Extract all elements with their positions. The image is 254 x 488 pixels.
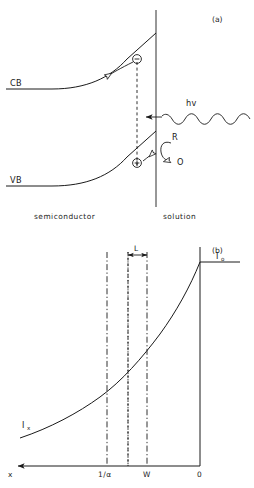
depth-intensity-subscript: x: [27, 425, 31, 431]
valence-band-curve: [6, 131, 156, 186]
hole-drift-arrow: [143, 152, 154, 161]
diffusion-length-label: L: [134, 244, 139, 253]
depth-axis-label: x: [8, 470, 13, 479]
depth-intensity-symbol: I: [22, 420, 25, 430]
photon-label: hv: [186, 98, 197, 108]
electron-drift-arrow: [106, 62, 133, 77]
figure-svg: (a) CB VB: [0, 0, 254, 488]
phase-label-solution: solution: [163, 212, 196, 221]
tick-label-zero: 0: [197, 470, 202, 479]
reduced-species-label: R: [172, 132, 178, 142]
conduction-band-label: CB: [10, 78, 22, 88]
oxidized-species-label: O: [177, 157, 184, 167]
panel-b: (b) L I o: [8, 244, 240, 479]
phase-label-semiconductor: semiconductor: [34, 212, 96, 221]
intensity-decay-curve: [20, 262, 200, 438]
incident-intensity-subscript: o: [221, 256, 225, 262]
depth-intensity-label: I x: [22, 420, 31, 431]
panel-a: (a) CB VB: [6, 10, 250, 221]
incident-intensity-symbol: I: [216, 251, 219, 261]
tick-label-w: W: [143, 470, 151, 479]
figure-container: (a) CB VB: [0, 0, 254, 488]
valence-band-label: VB: [10, 175, 22, 185]
panel-a-tag: (a): [212, 15, 223, 24]
tick-label-inverse-alpha: 1/α: [98, 470, 112, 479]
redox-arrow: [161, 142, 171, 160]
photon-wave: [162, 114, 250, 125]
